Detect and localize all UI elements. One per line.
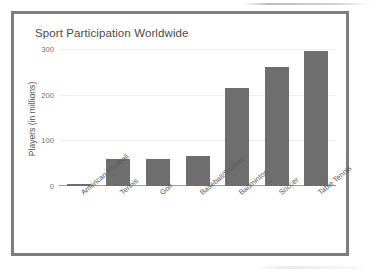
y-tick-label-0: 0 — [50, 182, 54, 191]
bar-slot — [138, 49, 178, 186]
y-tick-label-200: 200 — [41, 90, 54, 99]
chart-frame: Sport Participation Worldwide Players (i… — [11, 11, 349, 256]
scan-artifact-bottom — [252, 266, 372, 269]
chart-title: Sport Participation Worldwide — [35, 27, 189, 39]
scan-artifact-top — [243, 3, 371, 5]
bar-series — [59, 49, 336, 186]
y-tick-label-100: 100 — [41, 136, 54, 145]
chart-canvas: Sport Participation Worldwide Players (i… — [14, 14, 346, 253]
bar-table-tennis[interactable] — [304, 51, 328, 186]
y-tick-label-300: 300 — [41, 45, 54, 54]
x-axis-labels: American Football Tennis Golf Baseball/S… — [59, 186, 336, 248]
bar-slot — [296, 49, 336, 186]
bar-slot — [59, 49, 99, 186]
y-axis-title: Players (in millions) — [27, 63, 37, 175]
bar-soccer[interactable] — [265, 67, 289, 186]
bar-slot — [178, 49, 218, 186]
bar-slot — [257, 49, 297, 186]
plot-area: 300 200 100 0 — [59, 49, 336, 186]
